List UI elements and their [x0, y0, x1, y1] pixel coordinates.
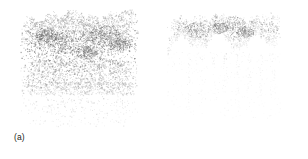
panel-b: (b): [154, 0, 308, 159]
point-cloud-b: [154, 0, 308, 132]
panel-a: (a): [0, 0, 154, 159]
point-cloud-figure: (a) (b): [0, 0, 308, 159]
panel-a-caption: (a): [14, 132, 25, 142]
point-cloud-a: [0, 0, 154, 132]
